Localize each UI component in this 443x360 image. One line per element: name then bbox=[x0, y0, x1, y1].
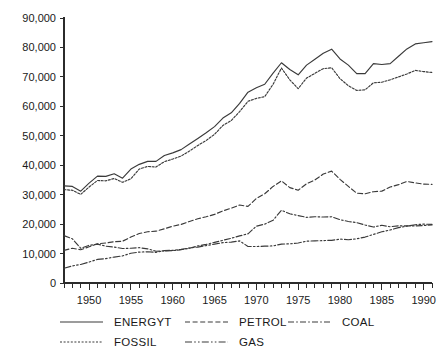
x-axis-tick-label: 1985 bbox=[370, 294, 394, 306]
x-axis-tick-label: 1955 bbox=[119, 294, 143, 306]
y-axis-tick-label: 0 bbox=[50, 277, 56, 289]
y-axis-tick-label: 80,000 bbox=[22, 41, 56, 53]
line-chart: 010,00020,00030,00040,00050,00060,00070,… bbox=[0, 0, 443, 360]
series-line-fossil bbox=[64, 68, 432, 195]
legend-label-petrol: PETROL bbox=[239, 316, 287, 328]
legend-label-gas: GAS bbox=[239, 336, 264, 348]
chart-legend: ENERGYTPETROLCOALFOSSILGAS bbox=[60, 316, 375, 348]
y-axis-tick-label: 40,000 bbox=[22, 159, 56, 171]
y-axis-tick-label: 20,000 bbox=[22, 218, 56, 230]
x-axis-tick-label: 1950 bbox=[77, 294, 101, 306]
x-axis-tick-label: 1970 bbox=[244, 294, 268, 306]
y-axis-tick-label: 10,000 bbox=[22, 248, 56, 260]
legend-label-coal: COAL bbox=[342, 316, 375, 328]
y-axis-tick-label: 30,000 bbox=[22, 189, 56, 201]
x-axis-tick-label: 1965 bbox=[202, 294, 226, 306]
y-axis-tick-label: 60,000 bbox=[22, 100, 56, 112]
y-axis-tick-label: 90,000 bbox=[22, 12, 56, 24]
y-axis: 010,00020,00030,00040,00050,00060,00070,… bbox=[22, 12, 64, 289]
series-line-energyt bbox=[64, 42, 432, 192]
x-axis: 195019551960196519701975198019851990 bbox=[64, 283, 436, 306]
x-axis-tick-label: 1960 bbox=[160, 294, 184, 306]
series-line-petrol bbox=[64, 171, 432, 250]
x-axis-tick-label: 1980 bbox=[328, 294, 352, 306]
legend-label-energyt: ENERGYT bbox=[114, 316, 172, 328]
legend-label-fossil: FOSSIL bbox=[114, 336, 157, 348]
x-axis-tick-label: 1975 bbox=[286, 294, 310, 306]
x-axis-tick-label: 1990 bbox=[411, 294, 435, 306]
series-line-gas bbox=[64, 224, 432, 268]
y-axis-tick-label: 70,000 bbox=[22, 71, 56, 83]
y-axis-tick-label: 50,000 bbox=[22, 130, 56, 142]
chart-canvas: 010,00020,00030,00040,00050,00060,00070,… bbox=[0, 0, 443, 360]
series-line-coal bbox=[64, 210, 432, 251]
data-series-group bbox=[64, 42, 432, 269]
